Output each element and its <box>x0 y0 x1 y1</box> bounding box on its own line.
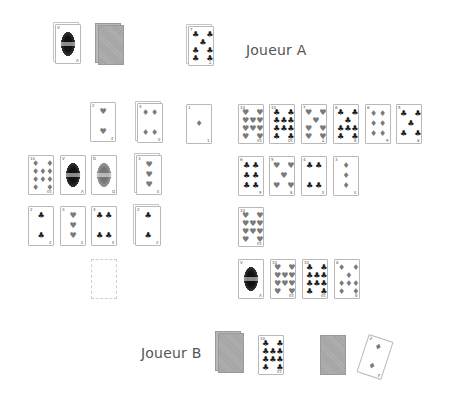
heart-icon: ♥ <box>287 162 294 170</box>
club-icon: ♣ <box>262 364 269 372</box>
heart-icon: ♥ <box>319 109 326 117</box>
card-2-h[interactable]: 22♥♥ <box>90 102 116 142</box>
club-icon: ♣ <box>243 162 250 170</box>
card-6-c[interactable]: 66♣♣♣♣♣♣ <box>238 156 264 196</box>
card-2-c[interactable]: 22♣♣ <box>135 206 161 246</box>
club-icon: ♣ <box>252 182 259 190</box>
card-V-c[interactable]: VV <box>55 24 81 64</box>
diamond-icon: ♦ <box>379 130 386 138</box>
heart-icon: ♥ <box>69 212 76 220</box>
card-V-c[interactable]: VV <box>238 259 264 299</box>
diamond-icon: ♦ <box>32 184 39 192</box>
player-a-label: Joueur A <box>246 42 306 58</box>
card-4-c[interactable]: 44♣♣♣♣ <box>91 206 117 246</box>
club-icon: ♣ <box>199 39 206 47</box>
heart-icon: ♥ <box>69 232 76 240</box>
club-icon: ♣ <box>344 125 351 133</box>
face-card-figure-icon <box>96 161 112 189</box>
heart-icon: ♥ <box>145 161 152 169</box>
card-3-d[interactable]: 33♦♦♦ <box>333 156 359 196</box>
card-1-d[interactable]: 11♦ <box>186 104 212 144</box>
club-icon: ♣ <box>96 212 103 220</box>
heart-icon: ♥ <box>242 133 249 141</box>
diamond-icon: ♦ <box>379 120 386 128</box>
card-index: V <box>259 293 262 297</box>
diamond-icon: ♦ <box>39 176 46 184</box>
card-index: D <box>112 189 115 193</box>
card-index: V <box>62 157 65 161</box>
card-6-d[interactable]: 66♦♦♦♦♦♦ <box>365 104 391 144</box>
card-10-h[interactable]: 1010♥♥♥♥♥♥♥♥♥♥ <box>270 259 296 299</box>
heart-icon: ♥ <box>280 172 287 180</box>
heart-icon: ♥ <box>273 182 280 190</box>
player-b-label: Joueur B <box>141 345 201 361</box>
club-icon: ♣ <box>37 232 44 240</box>
card-3-h[interactable]: 33♥♥♥ <box>136 155 162 195</box>
diamond-icon: ♦ <box>46 184 53 192</box>
club-icon: ♣ <box>320 288 327 296</box>
heart-icon: ♥ <box>145 171 152 179</box>
card-10-c[interactable]: 1010♣♣♣♣♣♣♣♣♣♣ <box>269 104 295 144</box>
club-icon: ♣ <box>144 212 151 220</box>
club-icon: ♣ <box>306 162 313 170</box>
diamond-icon: ♦ <box>352 288 359 296</box>
club-icon: ♣ <box>306 182 313 190</box>
diamond-icon: ♦ <box>352 264 359 272</box>
heart-icon: ♥ <box>256 133 263 141</box>
card-4-c[interactable]: 44♣♣♣♣ <box>301 156 327 196</box>
card-back-a-deck[interactable] <box>98 25 124 65</box>
card-10-h[interactable]: 1010♥♥♥♥♥♥♥♥♥♥ <box>238 104 264 144</box>
club-icon: ♣ <box>337 109 344 117</box>
card-10-d[interactable]: 1010♦♦♦♦♦♦♦♦♦♦ <box>28 155 54 195</box>
card-8-d[interactable]: 88♦♦♦♦♦♦♦♦ <box>334 259 360 299</box>
diamond-icon: ♦ <box>151 129 158 137</box>
diamond-icon: ♦ <box>342 182 349 190</box>
club-icon: ♣ <box>280 125 287 133</box>
heart-icon: ♥ <box>145 181 152 189</box>
card-10-c[interactable]: 1010♣♣♣♣♣♣♣♣♣♣ <box>258 335 284 375</box>
heart-icon: ♥ <box>287 182 294 190</box>
card-4-d[interactable]: 44♦♦♦♦ <box>137 103 163 143</box>
diamond-icon: ♦ <box>370 110 377 118</box>
club-icon: ♣ <box>206 55 213 63</box>
card-10-h[interactable]: 1010♥♥♥♥♥♥♥♥♥♥ <box>238 207 264 247</box>
card-index: V <box>57 26 60 30</box>
card-back-b-deck[interactable] <box>218 333 244 373</box>
card-V-c[interactable]: VV <box>60 155 86 195</box>
card-5-h[interactable]: 55♥♥♥♥♥ <box>269 156 295 196</box>
face-card-figure-icon <box>65 161 81 189</box>
club-icon: ♣ <box>96 232 103 240</box>
club-icon: ♣ <box>37 212 44 220</box>
card-7-h[interactable]: 77♥♥♥♥♥♥♥ <box>301 104 327 144</box>
club-icon: ♣ <box>306 288 313 296</box>
card-8-c[interactable]: 88♣♣♣♣♣♣♣♣ <box>333 104 359 144</box>
face-card-figure-icon <box>60 30 76 58</box>
card-5-c[interactable]: 55♣♣♣♣♣ <box>396 104 422 144</box>
club-icon: ♣ <box>351 133 358 141</box>
club-icon: ♣ <box>313 280 320 288</box>
heart-icon: ♥ <box>273 162 280 170</box>
heart-icon: ♥ <box>288 288 295 296</box>
club-icon: ♣ <box>351 109 358 117</box>
card-10-c[interactable]: 1010♣♣♣♣♣♣♣♣♣♣ <box>302 259 328 299</box>
heart-icon: ♥ <box>242 236 249 244</box>
card-back-b-back[interactable] <box>320 335 346 375</box>
club-icon: ♣ <box>252 162 259 170</box>
club-icon: ♣ <box>315 182 322 190</box>
card-2-d[interactable]: 22♦♦ <box>356 334 393 380</box>
card-index: V <box>76 58 79 62</box>
club-icon: ♣ <box>287 133 294 141</box>
diamond-icon: ♦ <box>379 110 386 118</box>
club-icon: ♣ <box>243 172 250 180</box>
diamond-icon: ♦ <box>342 172 349 180</box>
diamond-icon: ♦ <box>370 120 377 128</box>
club-icon: ♣ <box>144 232 151 240</box>
heart-icon: ♥ <box>99 108 106 116</box>
club-icon: ♣ <box>400 110 407 118</box>
card-7-c[interactable]: 77♣♣♣♣♣♣♣ <box>188 26 214 66</box>
card-D-h[interactable]: DD <box>91 155 117 195</box>
card-3-h[interactable]: 33♥♥♥ <box>60 206 86 246</box>
empty-card-slot[interactable] <box>91 259 117 299</box>
card-2-c[interactable]: 22♣♣ <box>28 206 54 246</box>
heart-icon: ♥ <box>305 133 312 141</box>
